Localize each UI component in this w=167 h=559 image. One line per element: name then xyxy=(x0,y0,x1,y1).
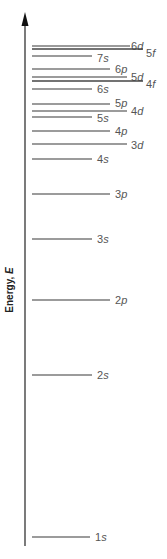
level-label: 5f xyxy=(146,47,156,59)
level-label: 5s xyxy=(97,112,109,124)
level-label: 2p xyxy=(115,294,127,306)
level-3s: 3s xyxy=(32,233,109,245)
level-5p: 5p xyxy=(32,97,127,109)
level-label: 5p xyxy=(115,97,127,109)
level-6s: 6s xyxy=(32,83,109,95)
level-5s: 5s xyxy=(32,112,109,124)
level-label: 4f xyxy=(146,78,156,90)
level-label: 4s xyxy=(97,153,109,165)
level-2p: 2p xyxy=(32,294,127,306)
level-4s: 4s xyxy=(32,153,109,165)
level-1s: 1s xyxy=(32,531,107,543)
level-7s: 7s xyxy=(32,52,109,64)
level-label: 1s xyxy=(95,531,107,543)
energy-levels: 6d5f7s6p5d4f6s5p4d5s4p3d4s3p3s2p2s1s xyxy=(32,40,156,543)
level-4p: 4p xyxy=(32,125,127,137)
level-4d: 4d xyxy=(32,105,144,117)
level-6p: 6p xyxy=(32,63,127,75)
level-label: 4d xyxy=(131,105,144,117)
level-label: 3p xyxy=(115,188,127,200)
level-3p: 3p xyxy=(32,188,127,200)
level-3d: 3d xyxy=(32,139,144,151)
level-6d: 6d xyxy=(32,40,144,52)
axis-title: Energy, E xyxy=(4,267,15,313)
level-label: 2s xyxy=(97,369,109,381)
level-label: 3d xyxy=(131,139,144,151)
energy-axis: Energy, E xyxy=(4,12,29,546)
level-label: 6p xyxy=(115,63,127,75)
level-5f: 5f xyxy=(32,47,156,59)
arrow-up-icon xyxy=(22,12,29,26)
level-label: 3s xyxy=(97,233,109,245)
level-2s: 2s xyxy=(32,369,109,381)
level-label: 7s xyxy=(97,52,109,64)
level-label: 6d xyxy=(131,40,144,52)
level-label: 4p xyxy=(115,125,127,137)
level-label: 6s xyxy=(97,83,109,95)
energy-level-diagram: Energy, E 6d5f7s6p5d4f6s5p4d5s4p3d4s3p3s… xyxy=(0,0,167,559)
